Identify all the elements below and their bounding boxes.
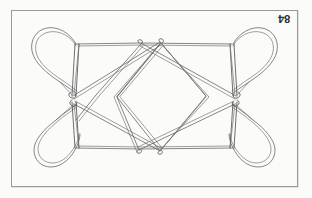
diagonal-right-mid-to-bottom-left: [138, 101, 235, 150]
diamond-inner-lines: [160, 43, 206, 151]
diagonal-left-mid-to-bottom-right: [74, 101, 161, 151]
lobe-upper-left: [32, 28, 77, 93]
lobe-upper-right: [232, 28, 277, 93]
rail-bottom-horizontal: [76, 146, 233, 149]
diagonal-upper-left-to-lower-right: [76, 44, 143, 121]
page-root: 84: [0, 0, 312, 198]
figure-line-drawing: [0, 0, 312, 198]
plate-number-label: 84: [278, 13, 290, 24]
